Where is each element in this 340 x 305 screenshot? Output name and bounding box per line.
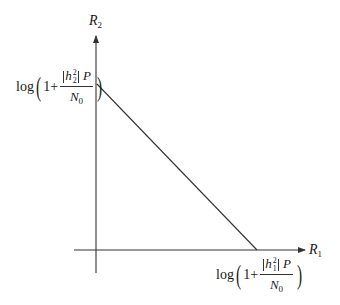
abs-bar-left — [63, 71, 64, 83]
channel-var: h — [265, 256, 272, 271]
numerator: h22 P — [60, 68, 93, 87]
y-intercept-formula: log ( 1+ h22 P N0 ) — [16, 68, 104, 105]
fraction: h22 P N0 — [60, 68, 93, 105]
y-axis-label: R2 — [89, 14, 102, 28]
noise-var: N — [270, 277, 279, 292]
abs-bar-right — [278, 259, 279, 271]
y-axis-label-sub: 2 — [98, 20, 103, 30]
fraction: h21 P N0 — [260, 256, 293, 293]
noise-sub: 0 — [79, 96, 84, 106]
noise-sub: 0 — [279, 284, 284, 294]
channel-sub: 1 — [273, 265, 277, 273]
numerator: h21 P — [260, 256, 293, 275]
abs-bar-left — [263, 259, 264, 271]
log-text: log — [216, 267, 234, 283]
region-boundary-line — [97, 84, 257, 250]
one-plus-text: 1+ — [243, 267, 258, 283]
one-plus-text: 1+ — [43, 79, 58, 95]
x-axis-label: R1 — [309, 243, 322, 257]
right-paren: ) — [297, 261, 302, 289]
denominator: N0 — [70, 87, 83, 105]
channel-var: h — [65, 68, 72, 83]
power-var: P — [83, 68, 91, 83]
y-axis-label-var: R — [89, 13, 98, 28]
noise-var: N — [70, 89, 79, 104]
left-paren: ( — [236, 261, 241, 289]
left-paren: ( — [36, 73, 41, 101]
x-axis-label-var: R — [309, 242, 318, 257]
abs-bar-right — [78, 71, 79, 83]
x-axis-label-sub: 1 — [318, 249, 323, 259]
right-paren: ) — [97, 73, 102, 101]
log-text: log — [16, 79, 34, 95]
denominator: N0 — [270, 275, 283, 293]
power-var: P — [283, 256, 291, 271]
x-intercept-formula: log ( 1+ h21 P N0 ) — [216, 256, 304, 293]
channel-sub: 2 — [73, 77, 77, 85]
